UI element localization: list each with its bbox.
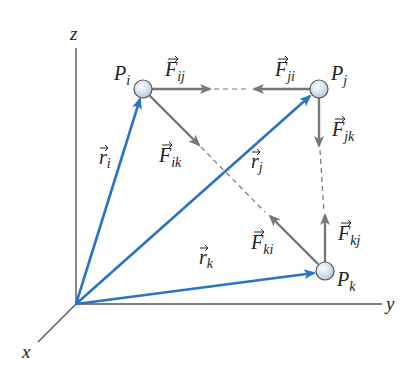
svg-text:Fji: Fji xyxy=(274,58,295,84)
label-F-ik: Fik xyxy=(158,142,182,170)
F-ki-arrow xyxy=(270,216,318,264)
particle-Pk xyxy=(316,262,334,280)
label-F-ki: Fki xyxy=(250,229,273,257)
svg-text:Fik: Fik xyxy=(158,144,182,170)
x-axis xyxy=(38,304,76,342)
label-Pj: Pj xyxy=(330,62,347,88)
position-vectors xyxy=(76,96,314,304)
force-labels: Fij Fji Fik Fjk Fki Fkj xyxy=(158,56,360,257)
label-Pi: Pi xyxy=(113,62,130,88)
label-Pk: Pk xyxy=(336,268,356,294)
F-ik-arrow xyxy=(149,95,199,145)
particle-Pi xyxy=(134,80,152,98)
label-F-ij: Fij xyxy=(164,56,185,84)
x-axis-label: x xyxy=(21,341,31,362)
particle-system-diagram: z y x Pi Pj Pk ri xyxy=(0,0,418,372)
label-r-j: rj xyxy=(251,149,263,175)
label-F-jk: Fjk xyxy=(331,116,355,144)
label-r-k: rk xyxy=(199,245,214,271)
forces xyxy=(149,89,325,264)
svg-text:rj: rj xyxy=(251,150,263,175)
r-j-arrow xyxy=(76,96,310,304)
label-F-kj: Fkj xyxy=(337,220,360,248)
r-i-arrow xyxy=(76,99,140,304)
svg-text:ri: ri xyxy=(99,146,111,171)
label-F-ji: Fji xyxy=(274,56,295,84)
lines-of-action xyxy=(201,89,324,212)
svg-text:Fjk: Fjk xyxy=(331,118,355,144)
y-axis-label: y xyxy=(384,293,395,314)
z-axis-label: z xyxy=(69,23,78,44)
svg-text:Fij: Fij xyxy=(164,58,185,84)
particle-Pj xyxy=(310,80,328,98)
r-k-arrow xyxy=(76,273,314,304)
dashed-jk xyxy=(320,150,324,212)
label-r-i: ri xyxy=(99,145,111,171)
